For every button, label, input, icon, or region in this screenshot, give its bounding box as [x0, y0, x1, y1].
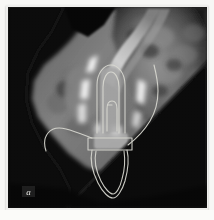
- radiograph-canvas: a: [8, 7, 207, 208]
- contour-root-outline: [91, 150, 128, 198]
- panel-label: a: [22, 186, 35, 197]
- contour-implant-outer: [97, 65, 125, 133]
- figure-panel: a: [0, 0, 214, 220]
- contour-abutment-band: [88, 138, 132, 150]
- contour-canal-left: [45, 128, 92, 151]
- contour-canal-right: [128, 65, 158, 145]
- caption-strip: [0, 210, 214, 220]
- contour-layer: [8, 7, 207, 208]
- contour-root-inner: [95, 151, 124, 194]
